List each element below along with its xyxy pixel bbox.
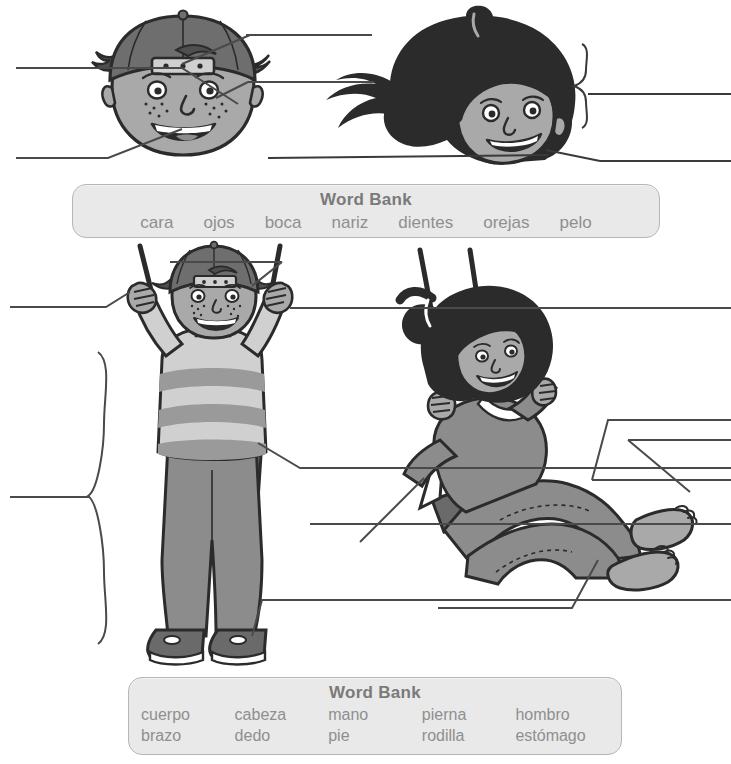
answer-line-girl-shoulder (592, 420, 731, 480)
word-dientes[interactable]: dientes (398, 210, 453, 236)
word-bank-body: Word Bank cuerpo cabeza mano pierna homb… (128, 677, 622, 755)
word-ojos[interactable]: ojos (203, 210, 234, 236)
word-dedo[interactable]: dedo (235, 725, 329, 746)
word-hombro[interactable]: hombro (515, 704, 609, 725)
word-pierna[interactable]: pierna (422, 704, 516, 725)
word-bank-face: Word Bank cara ojos boca nariz dientes o… (72, 184, 660, 238)
answer-line-girl-foot (628, 440, 690, 492)
word-cabeza[interactable]: cabeza (235, 704, 329, 725)
word-bank-body-grid: cuerpo cabeza mano pierna hombro brazo d… (129, 704, 621, 746)
word-bank-face-row: cara ojos boca nariz dientes orejas pelo (73, 210, 659, 236)
word-mano[interactable]: mano (328, 704, 422, 725)
word-estomago[interactable]: estómago (515, 725, 609, 746)
answer-line-girl-face (546, 150, 600, 161)
word-rodilla[interactable]: rodilla (422, 725, 516, 746)
worksheet-page: Word Bank cara ojos boca nariz dientes o… (0, 0, 731, 764)
answer-line-boy-hand (10, 292, 130, 307)
word-pelo[interactable]: pelo (560, 210, 592, 236)
word-bank-body-title: Word Bank (129, 682, 621, 704)
brace-boy-body (88, 352, 106, 644)
word-cara[interactable]: cara (140, 210, 173, 236)
word-orejas[interactable]: orejas (483, 210, 529, 236)
word-boca[interactable]: boca (265, 210, 302, 236)
word-bank-face-title: Word Bank (73, 189, 659, 210)
word-nariz[interactable]: nariz (332, 210, 369, 236)
girl-head-illustration (326, 6, 575, 164)
boy-head-illustration (92, 11, 270, 156)
answer-line-boy-shoe (252, 600, 731, 636)
answer-line-girl-arm (360, 478, 424, 542)
girl-body-illustration (400, 286, 697, 590)
worksheet-illustration (0, 0, 731, 764)
word-cuerpo[interactable]: cuerpo (141, 704, 235, 725)
word-brazo[interactable]: brazo (141, 725, 235, 746)
boy-body-illustration (128, 242, 293, 665)
word-pie[interactable]: pie (328, 725, 422, 746)
